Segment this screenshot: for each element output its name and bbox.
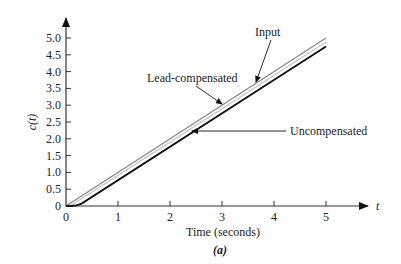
- x-tick-label: 5: [323, 210, 329, 224]
- chart: 00.51.01.52.02.53.03.54.04.55.0 012345 t…: [0, 0, 401, 264]
- series-layer: [66, 38, 326, 206]
- y-tick-label: 4.5: [46, 48, 61, 62]
- x-tick-label: 2: [167, 210, 173, 224]
- x-ticks: 012345: [63, 201, 329, 224]
- x-axis-label: Time (seconds): [186, 225, 260, 239]
- annotation-lead-arrow: [196, 86, 222, 104]
- y-tick-label: 5.0: [46, 31, 61, 45]
- x-tick-label: 3: [219, 210, 225, 224]
- y-tick-label: 4.0: [46, 65, 61, 79]
- y-tick-label: 3.0: [46, 98, 61, 112]
- annotation-input: Input: [255, 25, 281, 39]
- series-input: [66, 38, 326, 206]
- annotation-uncompensated: Uncompensated: [290, 124, 367, 138]
- y-tick-label: 1.5: [46, 149, 61, 163]
- y-tick-label: 2.5: [46, 115, 61, 129]
- y-tick-label: 2.0: [46, 132, 61, 146]
- annotation-lead-compensated: Lead-compensated: [147, 71, 238, 85]
- y-tick-label: 0.5: [46, 182, 61, 196]
- x-axis-symbol: t: [376, 199, 380, 213]
- y-ticks: 00.51.01.52.02.53.03.54.04.55.0: [46, 31, 71, 213]
- y-axis-label: c(t): [25, 114, 39, 131]
- y-tick-label: 1.0: [46, 165, 61, 179]
- figure-caption: (a): [213, 243, 227, 257]
- y-tick-label: 3.5: [46, 81, 61, 95]
- x-tick-label: 1: [115, 210, 121, 224]
- x-tick-label: 0: [63, 210, 69, 224]
- x-tick-label: 4: [271, 210, 277, 224]
- y-tick-label: 0: [55, 199, 61, 213]
